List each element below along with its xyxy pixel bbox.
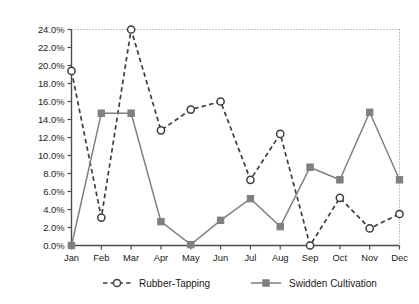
data-point-marker: [158, 218, 164, 224]
x-axis-tick-label: May: [182, 252, 200, 263]
data-point-marker: [68, 242, 74, 248]
series-swidden-cultivation: [68, 109, 402, 249]
x-axis-tick-label: Jan: [64, 252, 79, 263]
x-axis-tick-label: Apr: [154, 252, 169, 263]
data-series: [68, 26, 403, 249]
data-point-marker: [128, 26, 135, 33]
data-point-marker: [247, 176, 254, 183]
chart-container: % of Total Annual Labor Performed Each M…: [0, 0, 419, 304]
data-point-marker: [277, 130, 284, 137]
series-line: [72, 30, 400, 246]
data-point-marker: [396, 177, 402, 183]
series-line: [72, 112, 400, 245]
data-point-marker: [217, 217, 223, 223]
y-axis-tick-label: 0.0%: [43, 240, 64, 251]
y-axis-tick-label: 22.0%: [38, 42, 65, 53]
x-axis-tick-label: Sep: [302, 252, 319, 263]
y-axis-tick-label: 20.0%: [38, 60, 65, 71]
data-point-marker: [366, 109, 372, 115]
y-axis-tick-label: 4.0%: [43, 204, 64, 215]
data-point-marker: [187, 106, 194, 113]
data-point-marker: [157, 127, 164, 134]
y-axis-tick-label: 24.0%: [38, 24, 65, 35]
y-axis-tick-label: 2.0%: [43, 222, 64, 233]
data-point-marker: [188, 241, 194, 247]
data-point-marker: [247, 196, 253, 202]
data-point-marker: [277, 223, 283, 229]
legend-marker-rubber-tapping: [113, 279, 120, 286]
y-axis-tick-label: 16.0%: [38, 96, 65, 107]
x-axis-tick-labels: JanFebMarAprMayJunJulAugSepOctNovDec: [64, 252, 408, 263]
y-axis-tick-labels: 0.0%2.0%4.0%6.0%8.0%10.0%12.0%14.0%16.0%…: [38, 24, 65, 251]
x-axis-tick-label: Nov: [361, 252, 378, 263]
x-axis-tick-label: Aug: [272, 252, 289, 263]
y-axis-tick-label: 12.0%: [38, 132, 65, 143]
data-point-marker: [98, 214, 105, 221]
x-axis-tick-label: Jul: [244, 252, 256, 263]
legend-marker-swidden-cultivation: [263, 280, 269, 286]
data-point-marker: [307, 164, 313, 170]
chart-legend: Rubber-TappingSwidden Cultivation: [103, 278, 377, 289]
y-axis-tick-label: 18.0%: [38, 78, 65, 89]
x-axis-tick-label: Jun: [213, 252, 228, 263]
y-axis-tick-label: 14.0%: [38, 114, 65, 125]
y-axis-tick-label: 10.0%: [38, 150, 65, 161]
data-point-marker: [128, 110, 134, 116]
series-rubber-tapping: [68, 26, 403, 249]
data-point-marker: [396, 210, 403, 217]
legend-label-swidden-cultivation: Swidden Cultivation: [289, 278, 377, 289]
plot-area-wrapper: 0.0%2.0%4.0%6.0%8.0%10.0%12.0%14.0%16.0%…: [0, 0, 419, 304]
data-point-marker: [366, 225, 373, 232]
y-axis-tick-label: 6.0%: [43, 186, 64, 197]
chart-svg: 0.0%2.0%4.0%6.0%8.0%10.0%12.0%14.0%16.0%…: [0, 0, 419, 304]
data-point-marker: [336, 194, 343, 201]
x-axis-tick-label: Dec: [391, 252, 408, 263]
y-axis-tick-label: 8.0%: [43, 168, 64, 179]
x-axis-tick-label: Oct: [333, 252, 348, 263]
data-point-marker: [68, 67, 75, 74]
legend-label-rubber-tapping: Rubber-Tapping: [139, 278, 210, 289]
x-axis-tick-label: Mar: [123, 252, 139, 263]
data-point-marker: [98, 110, 104, 116]
x-axis-tick-label: Feb: [93, 252, 109, 263]
data-point-marker: [306, 242, 313, 249]
data-point-marker: [217, 98, 224, 105]
data-point-marker: [337, 177, 343, 183]
axes: [68, 30, 400, 250]
